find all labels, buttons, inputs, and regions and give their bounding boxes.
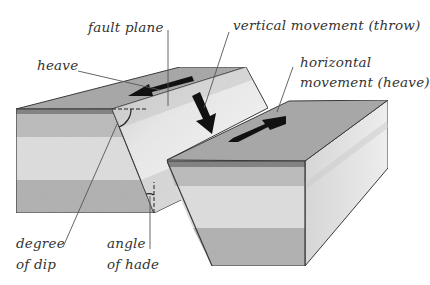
label-horizontal-movement-line2: movement (heave)	[300, 76, 430, 90]
label-degree-of-dip-line2: of dip	[16, 258, 56, 272]
label-heave: heave	[37, 59, 78, 73]
label-horizontal-movement-line1: horizontal	[300, 56, 371, 70]
left-front-dark-band	[16, 109, 114, 114]
left-front-light-band	[16, 137, 141, 180]
label-degree-of-dip-line1: degree	[16, 237, 65, 251]
label-fault-plane: fault plane	[88, 21, 164, 35]
right-front-medium-band	[169, 167, 305, 186]
left-front-medium-band	[16, 114, 124, 137]
label-angle-of-hade-line2: of hade	[107, 258, 159, 272]
right-front-dark-band	[167, 161, 305, 167]
label-vertical-movement: vertical movement (throw)	[233, 19, 421, 33]
label-angle-of-hade-line1: angle	[107, 237, 146, 251]
right-front-light-band	[175, 186, 305, 228]
